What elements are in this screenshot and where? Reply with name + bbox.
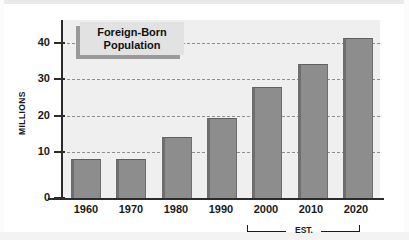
y-tick-label-40: 40 [22,36,50,48]
x-tick-label-1990: 1990 [198,203,244,215]
gridline-20 [62,116,380,117]
x-axis-line [48,198,384,200]
y-tick-label-10: 10 [22,145,50,157]
est-label: EST. [283,225,325,235]
chart-figure: 40 30 20 10 0 MILLIONS 1960 1970 1980 19… [0,0,409,240]
bar-1990 [207,118,237,198]
bar-2000 [252,87,282,198]
x-tick-label-2020: 2020 [333,203,379,215]
gridline-30 [62,79,380,80]
chart-title-box: Foreign-Born Population [80,22,184,55]
y-axis-title: MILLIONS [17,83,27,143]
figure-right-border [404,0,409,240]
est-bracket-line-right [321,231,360,232]
bar-1970 [116,159,146,198]
chart-title-line-2: Population [97,39,167,52]
y-tick-mark-40 [54,42,65,44]
bar-1960 [71,159,101,198]
bar-2010 [298,64,328,198]
x-tick-label-2000: 2000 [243,203,289,215]
x-tick-label-2010: 2010 [288,203,334,215]
y-axis-line [61,20,63,199]
est-bracket-line-left [247,231,286,232]
x-tick-label-1980: 1980 [153,203,199,215]
chart-title: Foreign-Born Population [93,26,171,52]
figure-bottom-border [0,232,409,240]
est-bracket-annotation: EST. [247,218,360,227]
y-tick-label-0: 0 [22,191,50,203]
bar-1980 [162,137,192,198]
x-tick-label-1960: 1960 [63,203,109,215]
y-tick-mark-20 [54,115,65,117]
y-tick-mark-30 [54,78,65,80]
y-tick-mark-10 [54,151,65,153]
figure-top-border [0,0,409,4]
chart-title-line-1: Foreign-Born [97,26,167,39]
figure-left-border [0,0,4,240]
x-tick-label-1970: 1970 [108,203,154,215]
bar-2020 [343,38,373,198]
y-tick-mark-0 [54,197,65,199]
